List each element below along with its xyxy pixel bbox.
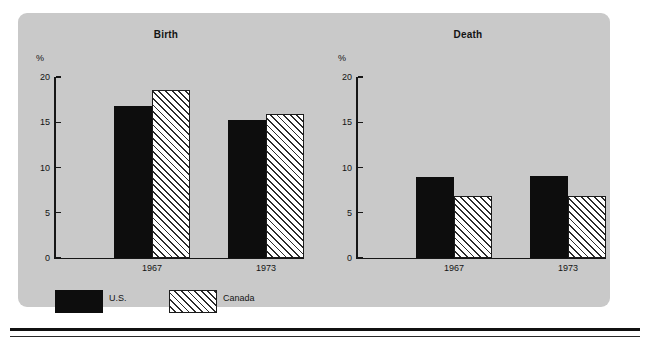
y-axis-unit-birth: % <box>36 53 44 63</box>
y-tick-mark <box>56 122 61 123</box>
x-category-label: 1973 <box>236 263 296 273</box>
legend-swatch-us-icon <box>55 290 103 313</box>
y-tick-mark <box>56 212 61 213</box>
x-category-label: 1967 <box>424 263 484 273</box>
y-tick-mark <box>56 257 61 258</box>
bar-canada-1967 <box>152 90 190 258</box>
y-tick-mark <box>358 122 363 123</box>
chart-title-birth: Birth <box>18 29 314 40</box>
y-tick-mark <box>358 257 363 258</box>
y-tick-label: 15 <box>326 117 352 127</box>
y-tick-label: 0 <box>24 253 50 263</box>
y-tick-mark <box>358 76 363 77</box>
legend-label-us: U.S. <box>109 293 127 303</box>
bar-us-1973 <box>228 120 266 258</box>
y-tick-mark <box>358 167 363 168</box>
y-tick-label: 15 <box>24 117 50 127</box>
y-tick-label: 20 <box>326 72 352 82</box>
x-category-label: 1967 <box>122 263 182 273</box>
y-tick-label: 0 <box>326 253 352 263</box>
bar-us-1973 <box>530 176 568 258</box>
footer-rule-thick <box>10 328 640 331</box>
legend-item-us: U.S. <box>55 290 127 313</box>
y-tick-label: 10 <box>24 163 50 173</box>
bar-canada-1967 <box>454 196 492 258</box>
y-tick-label: 10 <box>326 163 352 173</box>
chart-title-death: Death <box>320 29 616 40</box>
y-tick-mark <box>56 76 61 77</box>
bar-canada-1973 <box>266 114 304 258</box>
bar-us-1967 <box>416 177 454 258</box>
y-tick-label: 5 <box>24 208 50 218</box>
x-category-label: 1973 <box>538 263 598 273</box>
y-tick-mark <box>56 167 61 168</box>
chart-birth: Birth % 05101520 19671973 <box>18 13 314 283</box>
bar-us-1967 <box>114 106 152 258</box>
y-tick-label: 20 <box>24 72 50 82</box>
chart-death: Death % 05101520 19671973 <box>320 13 616 283</box>
legend-item-canada: Canada <box>169 290 255 313</box>
legend-label-canada: Canada <box>223 293 255 303</box>
footer-rule-thin <box>10 336 640 337</box>
y-axis-unit-death: % <box>338 53 346 63</box>
legend-swatch-canada-icon <box>169 290 217 313</box>
y-tick-mark <box>358 212 363 213</box>
bar-canada-1973 <box>568 196 606 258</box>
y-tick-label: 5 <box>326 208 352 218</box>
